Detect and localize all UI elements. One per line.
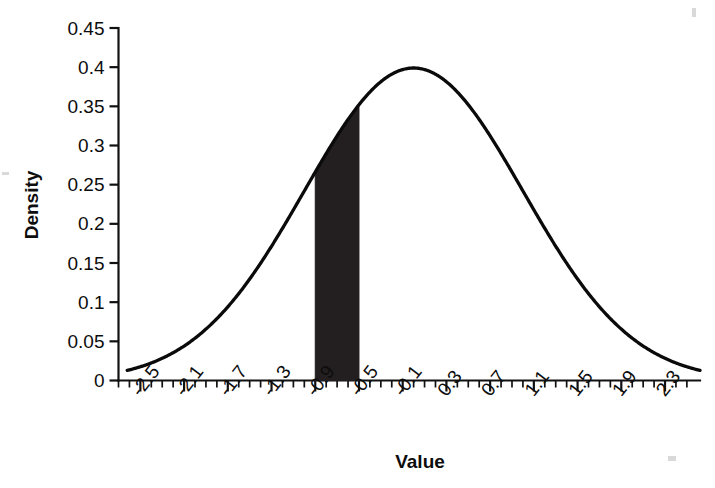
y-axis — [110, 28, 119, 381]
x-axis-title: Value — [395, 451, 445, 472]
y-axis-title: Density — [21, 170, 42, 239]
x-tick-label: -0.1 — [389, 361, 426, 400]
y-tick-label: 0.35 — [68, 96, 105, 117]
x-tick-label: 0.7 — [477, 366, 510, 400]
x-tick-label: -2.5 — [127, 361, 164, 400]
y-tick-label: 0 — [94, 370, 105, 391]
x-tick-label: 1.1 — [520, 366, 553, 400]
y-tick-label: 0.45 — [68, 18, 105, 39]
x-tick-label: 1.9 — [608, 366, 641, 400]
x-tick-label: 1.5 — [564, 366, 597, 400]
chart-figure: 00.050.10.150.20.250.30.350.40.45 -2.5-2… — [0, 0, 715, 488]
x-tick-label: 0.3 — [433, 366, 466, 400]
shaded-area-polygon — [315, 105, 359, 381]
scan-speck — [668, 456, 676, 461]
x-tick-label: -1.7 — [214, 361, 251, 400]
scan-speck — [692, 8, 696, 17]
x-tick-label: 2.3 — [652, 366, 685, 400]
y-tick-label: 0.4 — [78, 57, 105, 78]
density-plot: 00.050.10.150.20.250.30.350.40.45 -2.5-2… — [0, 0, 715, 488]
x-tick-label: -1.3 — [258, 361, 295, 400]
y-tick-label: 0.3 — [78, 135, 104, 156]
density-curve-path — [127, 68, 700, 370]
y-tick-label: 0.1 — [78, 292, 104, 313]
y-tick-labels: 00.050.10.150.20.250.30.350.40.45 — [68, 18, 105, 392]
scan-speck — [2, 172, 9, 175]
density-curve — [127, 68, 700, 370]
y-tick-label: 0.15 — [68, 253, 105, 274]
shaded-region — [315, 105, 359, 381]
x-tick-label: -2.1 — [171, 361, 208, 400]
y-tick-label: 0.2 — [78, 213, 104, 234]
y-tick-label: 0.25 — [68, 174, 105, 195]
y-tick-label: 0.05 — [68, 331, 105, 352]
